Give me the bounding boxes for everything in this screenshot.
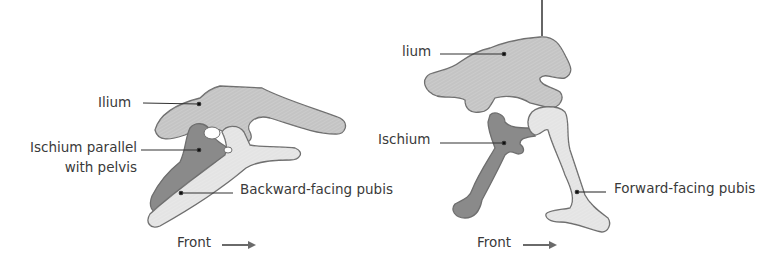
- right-ilium-bone: [425, 37, 571, 112]
- left-pubis-label: Backward-facing pubis: [240, 181, 393, 198]
- left-front-arrow-icon: [222, 241, 256, 249]
- right-ischium-bone: [453, 113, 535, 218]
- right-front-arrow-icon: [523, 241, 557, 249]
- left-ilium-label: Ilium: [98, 94, 131, 111]
- right-pubis-label: Forward-facing pubis: [614, 180, 755, 197]
- right-front-label: Front: [477, 234, 511, 251]
- left-ilium-bone: [155, 86, 345, 142]
- left-ischium-label-line1: Ischium parallel: [10, 139, 137, 156]
- right-pubis-bone: [528, 107, 610, 232]
- left-front-label: Front: [177, 234, 211, 251]
- left-ischium-label-line2: with pelvis: [10, 159, 137, 176]
- right-ischium-label: Ischium: [378, 131, 430, 148]
- right-ilium-label: lium: [402, 43, 431, 60]
